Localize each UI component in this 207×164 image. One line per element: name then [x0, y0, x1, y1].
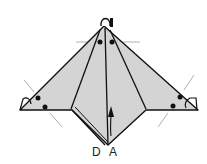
- label-d: D: [92, 146, 101, 158]
- top-flap-icon: [101, 19, 110, 27]
- label-a: A: [109, 146, 117, 158]
- origami-diagram: [0, 0, 207, 164]
- paper-shape: [20, 26, 198, 145]
